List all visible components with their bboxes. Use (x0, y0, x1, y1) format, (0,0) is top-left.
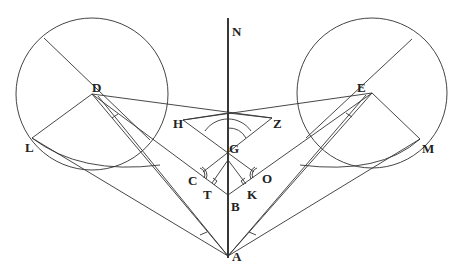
label-L: L (25, 140, 34, 155)
label-E: E (357, 80, 366, 95)
label-B: B (231, 199, 240, 214)
line-H-O (183, 120, 254, 172)
line-E-A (228, 93, 372, 256)
label-M: M (422, 141, 434, 156)
label-G: G (229, 141, 239, 156)
angle-mark-A-right (249, 232, 256, 235)
left-radius-L (32, 94, 92, 138)
diagram-canvas: N D E H Z G C O T K B A L M (0, 0, 457, 276)
geometry-diagram: N D E H Z G C O T K B A L M (0, 0, 457, 276)
label-N: N (232, 24, 242, 39)
line-H-axis (183, 113, 228, 120)
label-Z: Z (273, 116, 282, 131)
line-E-B (228, 93, 372, 195)
line-E-A-2 (228, 95, 366, 256)
line-D-A (92, 94, 228, 256)
label-D: D (92, 80, 101, 95)
label-T: T (203, 187, 212, 202)
angle-mark-A-left (200, 232, 207, 235)
label-C: C (188, 173, 197, 188)
label-H: H (173, 116, 183, 131)
label-A: A (232, 249, 242, 264)
line-G-K (228, 160, 246, 184)
label-K: K (247, 187, 258, 202)
line-L-A (32, 138, 228, 256)
label-O: O (262, 171, 272, 186)
right-radius-M (372, 93, 420, 139)
angle-arc-G-inner (228, 128, 246, 138)
right-curve (300, 139, 420, 167)
line-Z-axis (228, 113, 272, 118)
angle-mark-E (346, 113, 352, 117)
